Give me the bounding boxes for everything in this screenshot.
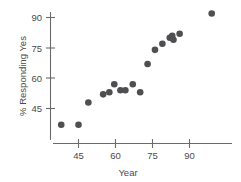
y-tick-label: 60 <box>31 73 42 84</box>
data-point <box>208 10 215 17</box>
data-point <box>85 99 92 106</box>
x-axis-title: Year <box>118 167 137 178</box>
data-point <box>144 61 151 68</box>
x-tick-label: 75 <box>147 150 158 161</box>
x-tick-label: 45 <box>73 150 84 161</box>
y-axis-title: % Responding Yes <box>17 36 28 116</box>
data-point <box>152 47 159 54</box>
data-point <box>159 40 166 47</box>
data-point <box>176 30 183 37</box>
x-axis-tick-labels: 45 60 75 90 <box>73 150 195 161</box>
y-tick-label: 90 <box>31 12 42 23</box>
data-point-layer <box>58 10 215 128</box>
data-point <box>170 36 177 43</box>
x-tick-label: 90 <box>184 150 195 161</box>
data-point <box>106 89 113 96</box>
x-tick-label: 60 <box>110 150 121 161</box>
y-tick-label: 75 <box>31 43 42 54</box>
data-point <box>137 89 144 96</box>
y-tick-label: 45 <box>31 103 42 114</box>
data-point <box>111 81 118 88</box>
data-point <box>58 121 65 128</box>
scatter-plot-figure: 90 75 60 45 45 60 75 90 Year % Respondin… <box>0 0 241 182</box>
y-axis-tick-labels: 90 75 60 45 <box>31 12 42 114</box>
data-point <box>122 87 129 94</box>
plot-canvas: 90 75 60 45 45 60 75 90 Year % Respondin… <box>0 0 241 182</box>
data-point <box>75 121 82 128</box>
data-point <box>129 81 136 88</box>
data-point <box>100 91 107 98</box>
